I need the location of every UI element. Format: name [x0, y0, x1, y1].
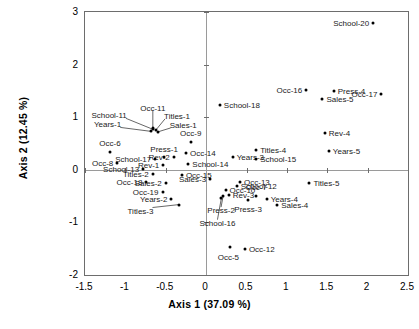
x-axis-tick-label: 1: [283, 281, 289, 292]
data-point: [227, 193, 230, 196]
scatter-plot-figure: Axis 2 (12.45 %) Axis 1 (37.09 %) School…: [0, 0, 419, 329]
y-axis-tick-label: -2: [69, 269, 78, 280]
data-point-label: Years-2: [140, 194, 167, 203]
y-axis-tick-label: -1: [69, 216, 78, 227]
data-point: [187, 163, 190, 166]
x-axis-tick-label: -0.5: [156, 281, 173, 292]
y-axis-tick: [204, 65, 209, 66]
y-axis-title: Axis 2 (12.45 %): [17, 63, 29, 213]
data-point-label: School-14: [192, 160, 228, 169]
y-zero-axis-line: [206, 12, 207, 275]
data-point: [172, 156, 175, 159]
x-axis-tick: [85, 168, 86, 173]
x-axis-tick: [166, 168, 167, 173]
data-point: [255, 194, 258, 197]
data-point-label: School-11: [91, 111, 126, 120]
data-point-label: Titles-5: [313, 179, 339, 188]
data-point-label: Years-5: [333, 146, 360, 155]
data-point-label: School-20: [333, 19, 369, 28]
data-point: [218, 103, 221, 106]
data-point: [162, 164, 165, 167]
x-axis-tick-label: 1.5: [319, 281, 333, 292]
data-point-label: Press-2: [207, 206, 235, 215]
x-axis-tick-label: -1: [120, 281, 129, 292]
data-point-label: Occ-5: [218, 253, 239, 262]
data-point: [231, 155, 234, 158]
data-point: [189, 141, 192, 144]
data-point: [255, 148, 258, 151]
y-axis-tick-label: 3: [72, 6, 78, 17]
data-point: [229, 246, 232, 249]
data-point: [178, 203, 181, 206]
x-axis-tick-label: 0: [202, 281, 208, 292]
data-point-label: Occ-11: [140, 103, 165, 112]
data-point: [156, 130, 159, 133]
data-point-label: Titles-4: [260, 145, 286, 154]
data-point: [161, 190, 164, 193]
data-point: [305, 88, 308, 91]
data-point-label: Occ-7: [246, 182, 267, 191]
data-point: [323, 131, 326, 134]
data-point: [109, 151, 112, 154]
data-point: [220, 196, 223, 199]
data-point: [170, 197, 173, 200]
data-point: [247, 198, 250, 201]
data-point: [151, 173, 154, 176]
data-point-label: School-18: [224, 100, 260, 109]
data-point-label: Sales-3: [179, 174, 206, 183]
x-axis-tick: [247, 168, 248, 173]
data-point-label: Titles-1: [164, 111, 190, 120]
y-axis-tick: [204, 117, 209, 118]
y-axis-tick: [204, 12, 209, 13]
data-point: [380, 93, 383, 96]
figure-caption: [4, 321, 415, 329]
x-axis-tick: [327, 168, 328, 173]
data-point: [372, 22, 375, 25]
x-axis-title: Axis 1 (37.09 %): [0, 298, 419, 310]
y-axis-tick-label: 0: [72, 163, 78, 174]
data-point-label: Occ-9: [180, 129, 201, 138]
x-axis-tick-label: 2.5: [400, 281, 414, 292]
label-leader-lines: [85, 12, 410, 277]
data-point-label: Sales-4: [281, 201, 308, 210]
data-point: [150, 130, 153, 133]
data-point: [276, 204, 279, 207]
data-point-label: Rev-3: [233, 190, 254, 199]
data-point-label: Occ-17: [352, 90, 378, 99]
data-point-label: Occ-14: [190, 149, 216, 158]
data-point-label: Sales-5: [326, 95, 353, 104]
data-point: [321, 98, 324, 101]
data-point-label: Press-3: [234, 204, 262, 213]
plot-area: School-20Occ-16Press-4Occ-17Sales-5Schoo…: [84, 11, 409, 276]
data-point-label: Occ-12: [249, 244, 275, 253]
data-point: [255, 157, 258, 160]
x-axis-tick-label: -1.5: [75, 281, 92, 292]
data-point: [224, 188, 227, 191]
data-point-label: School-15: [260, 154, 296, 163]
data-point: [209, 177, 212, 180]
data-point: [164, 181, 167, 184]
data-point: [308, 182, 311, 185]
data-point-label: School-16: [199, 218, 235, 227]
y-axis-tick: [204, 275, 209, 276]
y-axis-tick-label: 1: [72, 111, 78, 122]
y-axis-tick-label: 2: [72, 58, 78, 69]
data-point: [327, 149, 330, 152]
data-point-label: Sales-2: [135, 178, 162, 187]
x-axis-tick: [368, 168, 369, 173]
data-point-label: Occ-6: [99, 139, 120, 148]
data-point-label: Rev-4: [329, 128, 350, 137]
data-point-label: Occ-16: [276, 85, 302, 94]
x-axis-tick-label: 0.5: [239, 281, 253, 292]
data-point: [332, 89, 335, 92]
x-axis-tick: [408, 168, 409, 173]
data-point-label: Titles-3: [128, 206, 154, 215]
data-point: [243, 247, 246, 250]
x-axis-tick: [287, 168, 288, 173]
data-point: [265, 197, 268, 200]
data-point-label: Years-1: [94, 120, 121, 129]
x-axis-tick-label: 2: [364, 281, 370, 292]
data-point: [184, 152, 187, 155]
